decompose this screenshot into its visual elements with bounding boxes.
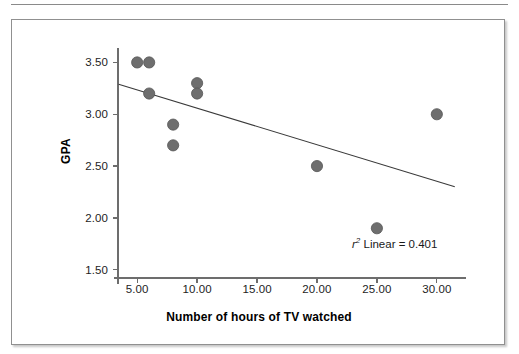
r-squared-annotation: r2 Linear = 0.401	[352, 236, 437, 250]
regression-line	[119, 84, 455, 187]
r-annotation-value: 0.401	[409, 238, 438, 250]
data-point	[192, 78, 203, 89]
x-tick-label: 25.00	[362, 283, 391, 295]
x-tick-label: 15.00	[242, 283, 271, 295]
y-tick-label: 3.00	[85, 108, 108, 120]
x-tick-label: 20.00	[302, 283, 331, 295]
data-point	[144, 88, 155, 99]
y-tick-label: 2.00	[85, 212, 108, 224]
x-tick-label: 10.00	[182, 283, 211, 295]
top-horizontal-rule	[11, 4, 508, 5]
fit-line	[119, 84, 455, 187]
data-point	[311, 160, 322, 171]
data-point	[371, 223, 382, 234]
data-point	[168, 140, 179, 151]
r-annotation-text: Linear =	[360, 238, 408, 250]
y-axis-title: GPA	[59, 138, 73, 164]
data-points	[132, 57, 443, 234]
data-point	[168, 119, 179, 130]
scatter-plot: 1.502.002.503.003.50 5.0010.0015.0020.00…	[12, 20, 506, 346]
data-point	[431, 109, 442, 120]
y-tick-label: 1.50	[85, 264, 108, 276]
axis-ticks	[113, 62, 437, 283]
x-axis-title: Number of hours of TV watched	[12, 310, 506, 324]
y-axis-title-container: GPA	[56, 20, 76, 282]
y-tick-label: 2.50	[85, 160, 108, 172]
data-point	[132, 57, 143, 68]
y-tick-label: 3.50	[85, 56, 108, 68]
data-point	[192, 88, 203, 99]
data-point	[144, 57, 155, 68]
x-axis-tick-labels: 5.0010.0015.0020.0025.0030.00	[12, 283, 506, 303]
figure-container: 1.502.002.503.003.50 5.0010.0015.0020.00…	[11, 19, 505, 345]
x-tick-label: 5.00	[126, 283, 149, 295]
x-tick-label: 30.00	[422, 283, 451, 295]
